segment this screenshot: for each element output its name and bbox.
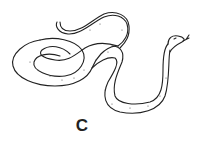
snake-figure: C xyxy=(0,0,206,143)
snake-illustration-icon xyxy=(0,0,206,143)
figure-label: C xyxy=(72,116,92,136)
